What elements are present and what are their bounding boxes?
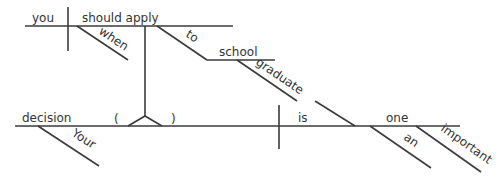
sentence-diagram: you should apply when to school graduate…: [0, 0, 502, 181]
predicate-nominative-line: [315, 101, 355, 126]
modifier-an: an: [401, 130, 421, 150]
clause-verb-should-apply: should apply: [82, 11, 159, 25]
predicate-one: one: [386, 111, 408, 125]
main-clause: decision Your is one an important: [15, 101, 495, 172]
modifier-an-line: [370, 126, 431, 168]
object-school: school: [219, 45, 257, 59]
noun-clause: you should apply when to school graduate: [25, 7, 306, 101]
clause-subject-you: you: [32, 11, 54, 25]
verb-is: is: [298, 111, 308, 125]
preposition-to: to: [183, 27, 201, 45]
subject-decision: decision: [22, 111, 71, 125]
modifier-your: Your: [69, 125, 99, 151]
adverb-when: when: [96, 24, 131, 54]
pedestal-triangle: [128, 116, 162, 126]
preposition-to-line: [157, 26, 207, 60]
pedestal-close-paren: ): [171, 112, 176, 126]
modifier-important: important: [438, 121, 495, 167]
pedestal-open-paren: (: [114, 112, 119, 126]
